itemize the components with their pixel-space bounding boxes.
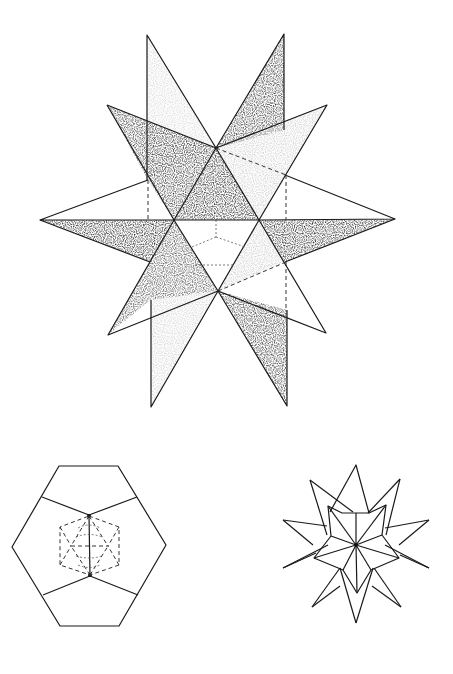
polyhedron-figure <box>0 0 453 674</box>
star-center-dot <box>354 543 358 547</box>
main-star-view <box>40 34 395 407</box>
dodecahedron-top-view <box>12 466 166 626</box>
